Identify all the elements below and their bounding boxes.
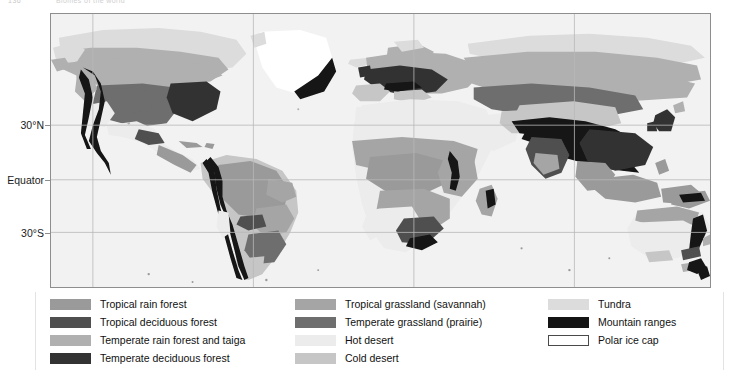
legend-label-temperate-rain-forest-and-taiga: Temperate rain forest and taiga [100, 335, 245, 346]
legend-column-1: Tropical rain forest Tropical deciduous … [50, 296, 245, 368]
legend-item-tundra[interactable]: Tundra [548, 296, 676, 313]
legend-swatch-tropical-grassland [295, 299, 336, 310]
world-biome-map [50, 13, 711, 288]
map-svg [51, 14, 710, 287]
legend-swatch-tropical-deciduous-forest [50, 317, 91, 328]
legend-item-tropical-rain-forest[interactable]: Tropical rain forest [50, 296, 245, 313]
legend-swatch-tundra [548, 299, 589, 310]
legend-label-tropical-deciduous-forest: Tropical deciduous forest [100, 317, 217, 328]
legend-column-2: Tropical grassland (savannah) Temperate … [295, 296, 486, 368]
latitude-label-30s: 30°S [6, 227, 44, 239]
legend-swatch-tropical-rain-forest [50, 299, 91, 310]
legend-label-tropical-rain-forest: Tropical rain forest [100, 299, 187, 310]
legend-item-tropical-deciduous-forest[interactable]: Tropical deciduous forest [50, 314, 245, 331]
legend-item-polar-ice-cap[interactable]: Polar ice cap [548, 332, 676, 349]
running-head: 136 Biomes of the world [0, 0, 748, 8]
latitude-label-equator: Equator [0, 174, 44, 186]
legend-label-temperate-deciduous-forest: Temperate deciduous forest [100, 353, 230, 364]
legend-swatch-mountain-ranges [548, 317, 589, 328]
legend-label-tropical-grassland: Tropical grassland (savannah) [345, 299, 486, 310]
legend-item-mountain-ranges[interactable]: Mountain ranges [548, 314, 676, 331]
legend-label-hot-desert: Hot desert [345, 335, 393, 346]
latitude-label-30n: 30°N [6, 119, 44, 131]
legend-label-tundra: Tundra [598, 299, 631, 310]
legend-column-3: Tundra Mountain ranges Polar ice cap [548, 296, 676, 350]
legend-item-tropical-grassland[interactable]: Tropical grassland (savannah) [295, 296, 486, 313]
legend-item-hot-desert[interactable]: Hot desert [295, 332, 486, 349]
legend-label-temperate-grassland: Temperate grassland (prairie) [345, 317, 482, 328]
legend-label-mountain-ranges: Mountain ranges [598, 317, 676, 328]
chapter-running-title: Biomes of the world [56, 0, 125, 4]
legend-swatch-polar-ice-cap [548, 335, 589, 346]
legend-label-cold-desert: Cold desert [345, 353, 399, 364]
legend-item-temperate-grassland[interactable]: Temperate grassland (prairie) [295, 314, 486, 331]
legend-swatch-cold-desert [295, 353, 336, 364]
legend-swatch-hot-desert [295, 335, 336, 346]
legend-item-temperate-rain-forest-and-taiga[interactable]: Temperate rain forest and taiga [50, 332, 245, 349]
map-legend: Tropical rain forest Tropical deciduous … [0, 296, 748, 368]
legend-swatch-temperate-grassland [295, 317, 336, 328]
legend-item-temperate-deciduous-forest[interactable]: Temperate deciduous forest [50, 350, 245, 367]
page-folio: 136 [8, 0, 21, 4]
legend-swatch-temperate-deciduous-forest [50, 353, 91, 364]
legend-item-cold-desert[interactable]: Cold desert [295, 350, 486, 367]
page-canvas: 136 Biomes of the world 30°N Equator 30°… [0, 0, 748, 371]
legend-label-polar-ice-cap: Polar ice cap [598, 335, 659, 346]
legend-swatch-temperate-rain-forest-and-taiga [50, 335, 91, 346]
